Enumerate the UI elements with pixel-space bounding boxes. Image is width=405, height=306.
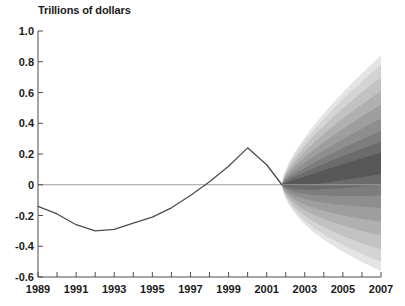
x-tick-label: 1995	[140, 283, 164, 295]
x-tick-label: 1997	[178, 283, 202, 295]
x-tick-label: 2007	[369, 283, 393, 295]
x-tick-label: 2001	[254, 283, 278, 295]
x-tick-label: 2003	[293, 283, 317, 295]
x-tick-label: 1991	[64, 283, 88, 295]
x-tick-label: 2005	[331, 283, 355, 295]
fan-chart: Trillions of dollars 1.00.80.60.40.20-0.…	[0, 0, 405, 306]
x-tick-label: 1999	[216, 283, 240, 295]
x-tick-label: 1989	[26, 283, 50, 295]
x-axis-tick-labels: 1989199119931995199719992001200320052007	[0, 0, 405, 306]
x-tick-label: 1993	[102, 283, 126, 295]
